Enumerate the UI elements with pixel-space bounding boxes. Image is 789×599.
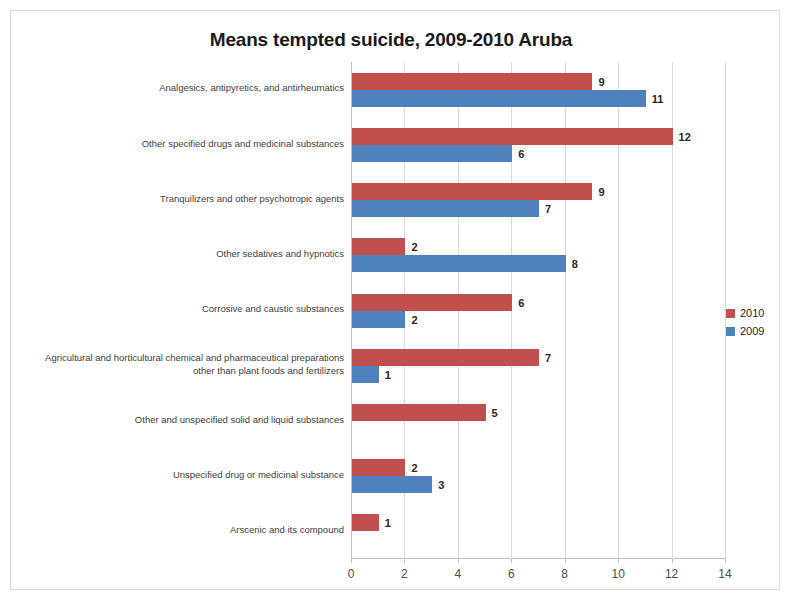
bar-2010-1 — [352, 128, 673, 145]
legend-label: 2010 — [740, 307, 764, 319]
x-axis-tick-label: 4 — [438, 567, 478, 581]
bar-2009-5 — [352, 366, 379, 383]
category-label-line: Arscenic and its compound — [8, 524, 344, 537]
x-axis-tick — [458, 559, 459, 563]
bar-2010-2 — [352, 183, 592, 200]
bar-2010-8 — [352, 514, 379, 531]
bar-2009-0 — [352, 90, 646, 107]
bar-value-label: 1 — [385, 517, 391, 529]
chart-legend: 20102009 — [726, 304, 764, 340]
legend-swatch-icon — [726, 327, 735, 336]
bar-value-label: 2 — [411, 314, 417, 326]
chart-screenshot: Means tempted suicide, 2009-2010 Aruba A… — [0, 0, 789, 599]
bar-value-label: 5 — [492, 407, 498, 419]
bar-value-label: 8 — [572, 258, 578, 270]
bar-value-label: 9 — [598, 76, 604, 88]
bar-2010-4 — [352, 294, 512, 311]
category-label-line: Corrosive and caustic substances — [8, 303, 344, 316]
bar-2010-7 — [352, 459, 405, 476]
bar-2009-7 — [352, 476, 432, 493]
bar-2010-0 — [352, 73, 592, 90]
x-axis-tick-label: 14 — [705, 567, 745, 581]
category-label-line: Analgesics, antipyretics, and antirheuma… — [8, 82, 344, 95]
x-axis-tick — [618, 559, 619, 563]
bar-value-label: 9 — [598, 186, 604, 198]
bar-2010-3 — [352, 238, 405, 255]
x-axis-tick — [672, 559, 673, 563]
category-label-line: Tranquilizers and other psychotropic age… — [8, 193, 344, 206]
bar-2010-5 — [352, 349, 539, 366]
bar-value-label: 6 — [518, 148, 524, 160]
category-label-line: Other sedatives and hypnotics — [8, 248, 344, 261]
category-label: Unspecified drug or medicinal substance — [8, 469, 344, 482]
category-label-line: Unspecified drug or medicinal substance — [8, 469, 344, 482]
bar-2009-1 — [352, 145, 512, 162]
category-label: Other sedatives and hypnotics — [8, 248, 344, 261]
category-label-line: Other specified drugs and medicinal subs… — [8, 138, 344, 151]
bar-2009-4 — [352, 311, 405, 328]
plot-area: 911126972862715231 — [351, 62, 725, 559]
bar-value-label: 7 — [545, 352, 551, 364]
bar-2010-6 — [352, 404, 486, 421]
bar-value-label: 2 — [411, 462, 417, 474]
category-label-line: Agricultural and horticultural chemical … — [8, 352, 344, 365]
bar-value-label: 2 — [411, 241, 417, 253]
bar-value-label: 6 — [518, 297, 524, 309]
x-axis-tick — [511, 559, 512, 563]
x-axis-tick-label: 12 — [652, 567, 692, 581]
bar-value-label: 12 — [679, 131, 691, 143]
x-axis-tick — [351, 559, 352, 563]
bar-2009-3 — [352, 255, 566, 272]
category-axis-line — [351, 558, 725, 559]
chart-title: Means tempted suicide, 2009-2010 Aruba — [11, 29, 771, 51]
x-axis-tick — [565, 559, 566, 563]
legend-swatch-icon — [726, 309, 735, 318]
bar-value-label: 3 — [438, 479, 444, 491]
category-label: Other specified drugs and medicinal subs… — [8, 138, 344, 151]
x-axis-tick-label: 6 — [491, 567, 531, 581]
legend-item-2010[interactable]: 2010 — [726, 304, 764, 322]
bar-value-label: 1 — [385, 369, 391, 381]
category-label: Analgesics, antipyretics, and antirheuma… — [8, 82, 344, 95]
x-axis-tick-label: 10 — [598, 567, 638, 581]
x-axis-tick — [404, 559, 405, 563]
category-label-line: other than plant foods and fertilizers — [8, 365, 344, 378]
legend-item-2009[interactable]: 2009 — [726, 322, 764, 340]
bar-2009-2 — [352, 200, 539, 217]
x-axis-tick-label: 0 — [331, 567, 371, 581]
bar-value-label: 11 — [652, 93, 664, 105]
x-axis-tick — [725, 559, 726, 563]
legend-label: 2009 — [740, 325, 764, 337]
category-label: Other and unspecified solid and liquid s… — [8, 414, 344, 427]
bar-value-label: 7 — [545, 203, 551, 215]
category-label: Tranquilizers and other psychotropic age… — [8, 193, 344, 206]
category-label-line: Other and unspecified solid and liquid s… — [8, 414, 344, 427]
category-label: Agricultural and horticultural chemical … — [8, 352, 344, 377]
x-axis-tick-label: 8 — [545, 567, 585, 581]
category-label: Corrosive and caustic substances — [8, 303, 344, 316]
category-label: Arscenic and its compound — [8, 524, 344, 537]
x-axis-tick-label: 2 — [384, 567, 424, 581]
